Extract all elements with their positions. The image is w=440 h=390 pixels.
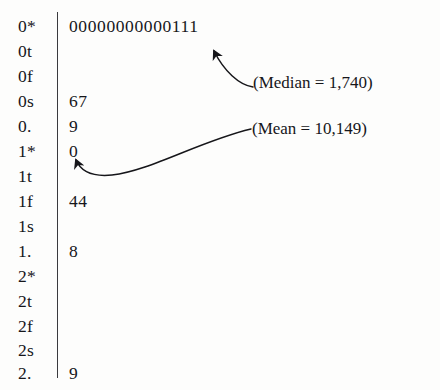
stem-label: 2t xyxy=(18,289,52,314)
table-row: 0f xyxy=(0,64,440,89)
stem-and-leaf-figure: 0* 00000000000111 0t 0f 0s 67 0. 9 1* 0 … xyxy=(0,0,440,390)
stem-label: 2* xyxy=(18,264,52,289)
table-row: 2. 9 xyxy=(0,361,440,386)
stem-label: 0* xyxy=(18,14,52,39)
leaf-values: 44 xyxy=(69,189,88,214)
leaf-values: 0 xyxy=(69,139,78,164)
stem-label: 2f xyxy=(18,314,52,339)
table-row: 0* 00000000000111 xyxy=(0,14,440,39)
stem-label: 0t xyxy=(18,39,52,64)
table-row: 2s xyxy=(0,338,440,363)
table-row: 0t xyxy=(0,39,440,64)
table-row: 1f 44 xyxy=(0,189,440,214)
leaf-values: 67 xyxy=(69,89,88,114)
table-row: 0. 9 xyxy=(0,114,440,139)
stem-label: 1f xyxy=(18,189,52,214)
table-row: 1t xyxy=(0,164,440,189)
stem-label: 0s xyxy=(18,89,52,114)
median-annotation-label: (Median = 1,740) xyxy=(253,73,373,93)
leaf-values: 00000000000111 xyxy=(69,14,199,39)
table-row: 1* 0 xyxy=(0,139,440,164)
mean-annotation-label: (Mean = 10,149) xyxy=(252,119,367,139)
stem-label: 0f xyxy=(18,64,52,89)
leaf-values: 8 xyxy=(69,239,78,264)
table-row: 1s xyxy=(0,214,440,239)
plot-area: 0* 00000000000111 0t 0f 0s 67 0. 9 1* 0 … xyxy=(0,0,440,390)
stem-label: 2. xyxy=(18,361,52,386)
table-row: 0s 67 xyxy=(0,89,440,114)
leaf-values: 9 xyxy=(69,114,78,139)
stem-label: 0. xyxy=(18,114,52,139)
stem-label: 1t xyxy=(18,164,52,189)
stem-label: 1* xyxy=(18,139,52,164)
table-row: 2t xyxy=(0,289,440,314)
table-row: 2* xyxy=(0,264,440,289)
stem-label: 2s xyxy=(18,338,52,363)
stem-label: 1s xyxy=(18,214,52,239)
leaf-values: 9 xyxy=(69,361,78,386)
table-row: 2f xyxy=(0,314,440,339)
stem-label: 1. xyxy=(18,239,52,264)
table-row: 1. 8 xyxy=(0,239,440,264)
